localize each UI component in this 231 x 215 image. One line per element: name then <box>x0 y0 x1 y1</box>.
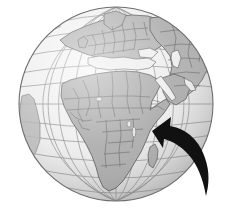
globe-figure: World globe centered on Africa with poin… <box>0 0 231 215</box>
sphere-shading <box>19 7 213 201</box>
landmasses <box>19 7 213 201</box>
globe-illustration <box>0 0 231 215</box>
